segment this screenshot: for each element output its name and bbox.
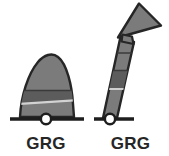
arrow-pivot-circle	[105, 114, 115, 124]
arrow-glyph	[92, 0, 169, 130]
label-row: GRG GRG	[0, 130, 169, 156]
dome-body	[20, 55, 74, 117]
dome-glyph	[0, 0, 92, 130]
figure-arrow	[92, 0, 169, 130]
arrow-head	[118, 4, 161, 38]
diagram-canvas: GRG GRG	[0, 0, 169, 156]
arrow-notch	[122, 35, 134, 45]
label-arrow: GRG	[92, 130, 169, 156]
arrow-segment-dark	[98, 71, 138, 88]
dome-pivot-circle	[41, 114, 51, 124]
figure-dome	[0, 0, 92, 130]
label-dome: GRG	[0, 130, 92, 156]
